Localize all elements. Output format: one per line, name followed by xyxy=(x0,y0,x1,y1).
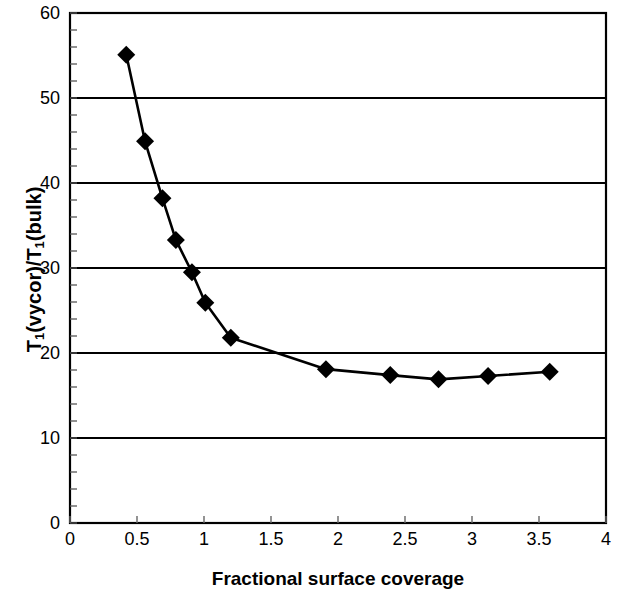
chart-figure: T1(vycor)/T1(bulk) 60 50 40 30 20 10 0 0… xyxy=(0,0,627,602)
plot-canvas xyxy=(0,0,627,602)
